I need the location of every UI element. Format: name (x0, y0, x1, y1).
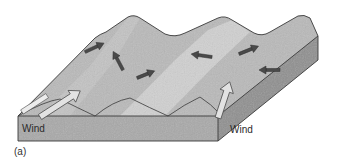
panel-label: (a) (14, 147, 26, 157)
wind-label-left: Wind (22, 124, 45, 134)
dune-block-diagram (0, 0, 337, 158)
wind-label-right: Wind (230, 125, 253, 135)
front-face (18, 116, 218, 141)
